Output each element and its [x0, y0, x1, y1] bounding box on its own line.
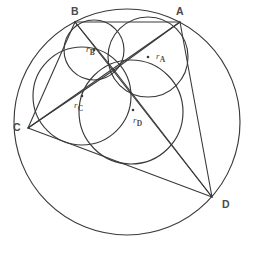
radius-label-c-subscript: C [78, 104, 83, 113]
vertex-label-a: A [176, 6, 184, 17]
radius-label-c-base: r [74, 100, 78, 110]
spoke-point-to-d [114, 70, 212, 197]
geometry-canvas [0, 0, 258, 253]
radius-label-d: rD [133, 116, 142, 127]
radius-label-d-base: r [133, 115, 137, 125]
center-dot-d [132, 109, 135, 112]
radius-label-a: rA [156, 52, 165, 63]
radius-label-d-subscript: D [137, 119, 142, 128]
radius-label-a-subscript: A [160, 55, 165, 64]
chord-da [180, 22, 212, 197]
center-dot-c [81, 95, 84, 98]
radius-label-b-base: r [86, 44, 90, 54]
vertex-label-d: D [222, 199, 230, 210]
vertex-label-c: C [13, 122, 21, 133]
inner-circle-d [79, 60, 183, 164]
center-dot-a [147, 56, 150, 59]
vertex-label-b: B [71, 6, 79, 17]
radius-label-b-subscript: B [90, 48, 95, 57]
radius-label-c: rC [74, 101, 83, 112]
radius-label-a-base: r [156, 51, 160, 61]
circumcircle [14, 9, 240, 235]
radius-label-b: rB [86, 45, 95, 56]
geometry-figure: A B C D rA rB rC rD [0, 0, 258, 253]
